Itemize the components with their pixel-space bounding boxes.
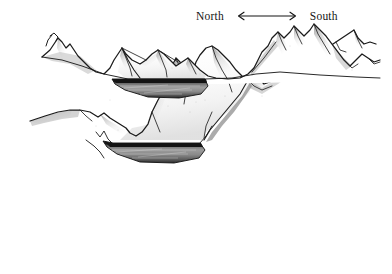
- lower-cross-section-panel: South North: [0, 168, 392, 274]
- upper-cirque-basin: [103, 141, 205, 163]
- lower-terrain-sketch: [0, 0, 392, 106]
- lower-cirque-basin: [112, 79, 208, 98]
- figure-root: North South: [0, 0, 392, 274]
